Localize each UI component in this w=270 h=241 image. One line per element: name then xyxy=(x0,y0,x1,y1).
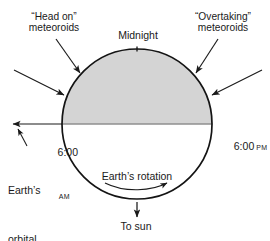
head-on-meteoroids-label: “Head on” meteoroids xyxy=(6,11,102,34)
six-pm-time: 6:00 xyxy=(234,140,254,152)
to-sun-label: To sun xyxy=(104,221,168,233)
head-on-arrow-lower-icon xyxy=(14,70,64,95)
overtaking-arrow-upper-icon xyxy=(196,39,218,73)
midnight-label: Midnight xyxy=(92,30,184,42)
orbital-motion-line-1: Earth’s xyxy=(8,184,68,198)
earth-rotation-label: Earth’s rotation xyxy=(82,171,192,183)
diagram-canvas: “Head on” meteoroids “Overtaking” meteor… xyxy=(0,0,270,241)
earth-day-half xyxy=(62,124,212,199)
earth-orbital-motion-label: Earth’s orbital motion xyxy=(8,148,68,241)
overtaking-arrow-lower-icon xyxy=(212,70,262,95)
orbital-motion-line-2: orbital xyxy=(8,233,68,241)
six-pm-label: 6:00PM xyxy=(216,118,270,172)
overtaking-meteoroids-label: “Overtaking” meteoroids xyxy=(178,11,268,34)
six-pm-meridiem: PM xyxy=(256,144,267,151)
head-on-arrow-upper-icon xyxy=(56,39,80,73)
